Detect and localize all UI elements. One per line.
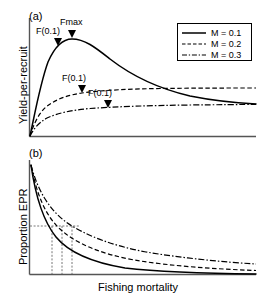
legend-label-m03: M = 0.3 [211,50,241,60]
panel-a-annotation-f01-m03: F(0.1) [88,89,112,98]
panel-a-arrow-f01-m01 [54,38,62,46]
panel-b-tag: (b) [29,148,42,159]
panel-b-curve-m01 [31,165,256,274]
panel-b [30,160,257,275]
panel-b-y-axis-label: Proportion EPR [18,189,29,265]
panel-a-arrow-fmax [68,30,76,38]
panel-a-curve-m03 [30,104,256,136]
legend-line-dashed-icon [181,38,207,49]
legend-line-solid-icon [181,27,207,38]
panel-a-tag: (a) [29,11,42,22]
legend-line-dashdot-icon [181,49,207,60]
panel-a-annotation-f01-m02: F(0.1) [62,74,86,83]
legend-label-m01: M = 0.1 [211,28,241,38]
panel-a-annotation-f01-m01: F(0.1) [36,27,60,36]
panel-b-curve-m02 [31,165,256,271]
panel-b-x-axis-label: Fishing mortality [98,282,178,293]
panel-b-curve-m03 [31,165,256,264]
legend-label-m02: M = 0.2 [211,39,241,49]
panel-a-annotation-fmax: Fmax [60,18,83,27]
legend-item-m03: M = 0.3 [178,49,251,60]
legend-item-m02: M = 0.2 [178,38,251,49]
legend-item-m01: M = 0.1 [178,27,251,38]
legend: M = 0.1 M = 0.2 M = 0.3 [177,23,252,61]
panel-a-arrow-f01-m03 [104,100,112,108]
panel-a-y-axis-label: Yield-per-recruit [18,46,29,124]
figure-panel-group: (a) F(0.1) Fmax F(0.1) F(0.1) Yield-per-… [0,0,262,304]
panel-a-arrow-f01-m02 [78,85,86,93]
